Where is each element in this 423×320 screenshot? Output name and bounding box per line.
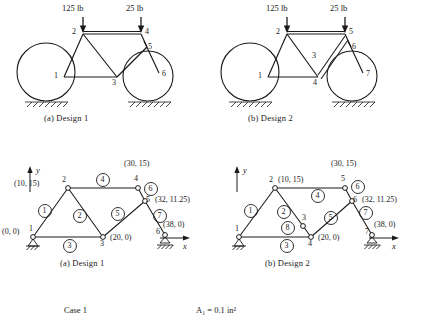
caption-bike-design1: (a) Design 1 xyxy=(44,113,88,123)
truss-t1-node-2: 2 xyxy=(62,176,66,184)
truss-t1-element-2: 2 xyxy=(78,212,82,220)
bike-d1-node-1: 1 xyxy=(54,72,58,80)
load-label-25-d2: 25 lb xyxy=(330,4,347,13)
load-label-25-d1: 25 lb xyxy=(126,4,143,13)
load-arrow-125-d2 xyxy=(284,17,290,33)
truss-t2-node-3: 3 xyxy=(302,214,306,222)
truss-t1-element-4: 4 xyxy=(101,176,105,184)
truss-t1-node-1: 1 xyxy=(29,225,33,233)
coord-t1-node5: (32, 11.25) xyxy=(155,196,190,204)
coord-t1-node2: (10, 15) xyxy=(14,180,39,188)
pin-support-t2 xyxy=(232,239,246,250)
truss-t1-element-6: 6 xyxy=(149,185,153,193)
truss-t2-element-5: 5 xyxy=(329,214,333,222)
coord-t2-node7: (38, 0) xyxy=(374,221,395,229)
truss-t2-element-7: 7 xyxy=(364,209,368,217)
truss-t2-node-5: 5 xyxy=(341,175,345,183)
truss-t1-element-1: 1 xyxy=(43,207,47,215)
coord-t1-node4: (30, 15) xyxy=(124,160,149,168)
axis-label-y-t1: y xyxy=(36,166,40,175)
truss-t1-node-6: 6 xyxy=(156,228,160,236)
bike-d1-node-6: 6 xyxy=(162,70,166,78)
frame-d1 xyxy=(64,34,159,77)
truss-t2-node-6: 6 xyxy=(353,196,357,204)
truss-t2-element-4: 4 xyxy=(316,192,320,200)
truss-t1-node-3: 3 xyxy=(100,240,104,248)
chainstay-double-d2 xyxy=(318,36,348,79)
load-arrow-125-d1 xyxy=(80,17,86,33)
truss-t2-element-1: 1 xyxy=(249,207,253,215)
caption-bike-design2: (b) Design 2 xyxy=(248,113,293,123)
coord-t2-node4: (20, 0) xyxy=(318,234,339,242)
truss-t2-node-4: 4 xyxy=(308,240,312,248)
load-label-125-d2: 125 lb xyxy=(266,4,288,13)
bike-design1-drawing xyxy=(0,0,423,320)
caption-truss-design1: (a) Design 1 xyxy=(60,258,104,268)
coord-t2-node6: (32, 11.25) xyxy=(362,196,397,204)
bike-d1-node-4: 4 xyxy=(145,28,149,36)
figure-container: 125 lb 25 lb 125 lb 25 lb 2 4 5 6 1 3 2 … xyxy=(0,0,423,320)
truss-t1-node-4: 4 xyxy=(134,175,138,183)
truss-t2-element-2: 2 xyxy=(282,208,286,216)
bike-d2-node-1: 1 xyxy=(258,72,262,80)
bike-d2-node-6: 6 xyxy=(352,43,356,51)
coord-t1-node6: (38, 0) xyxy=(163,221,184,229)
coord-t1-node1: (0, 0) xyxy=(2,228,19,236)
bike-d1-node-3: 3 xyxy=(112,79,116,87)
load-arrow-25-d2 xyxy=(342,17,348,33)
pin-support-t1 xyxy=(26,239,40,250)
roller-support-t1 xyxy=(157,237,174,249)
bike-d1-node-5: 5 xyxy=(148,43,152,51)
truss-t2-element-8: 8 xyxy=(286,224,290,232)
clipped-text-row xyxy=(0,316,423,320)
bike-d2-node-5: 5 xyxy=(349,28,353,36)
area-label: A₁ = 0.1 in² xyxy=(196,306,236,315)
axis-label-x-t1: x xyxy=(183,242,187,251)
coord-t1-node3: (20, 0) xyxy=(110,234,131,242)
bike-d2-node-4: 4 xyxy=(313,79,317,87)
bike-d1-node-2: 2 xyxy=(72,28,76,36)
truss-t2-node-1: 1 xyxy=(235,225,239,233)
coord-t2-node2: (10, 15) xyxy=(278,176,303,184)
ground-front-d1 xyxy=(128,102,171,107)
load-label-125-d1: 125 lb xyxy=(62,4,84,13)
ground-rear-d2 xyxy=(229,102,272,107)
truss-t1-node-5: 5 xyxy=(146,196,150,204)
bike-d2-node-3: 3 xyxy=(312,52,316,60)
truss-t1-element-7: 7 xyxy=(158,212,162,220)
truss-t2-node-2: 2 xyxy=(269,176,273,184)
bike-d2-node-2: 2 xyxy=(276,28,280,36)
truss-t1-element-5: 5 xyxy=(116,210,120,218)
truss-t2-node-7: 7 xyxy=(365,228,369,236)
axis-label-y-t2: y xyxy=(243,166,247,175)
truss-t1-element-3: 3 xyxy=(68,242,72,250)
caption-truss-design2: (b) Design 2 xyxy=(265,258,310,268)
axis-label-x-t2: x xyxy=(392,242,396,251)
roller-support-t2 xyxy=(364,237,381,249)
truss-t2-element-3: 3 xyxy=(285,242,289,250)
case-label: Case 1 xyxy=(64,306,87,315)
load-arrow-25-d1 xyxy=(138,17,144,33)
truss-t2-element-6: 6 xyxy=(356,183,360,191)
ground-rear-d1 xyxy=(25,102,68,107)
bike-d2-node-7: 7 xyxy=(366,70,370,78)
coord-t2-node5: (30, 15) xyxy=(331,160,356,168)
ground-front-d2 xyxy=(332,102,375,107)
